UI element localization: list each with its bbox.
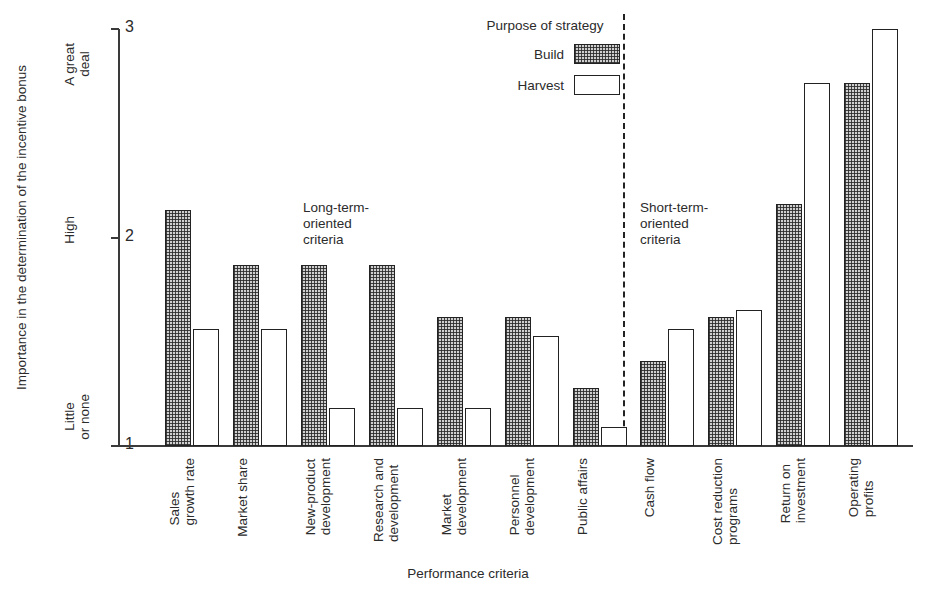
- bar-operating-profits-harvest: [872, 29, 898, 446]
- bar-new-product-development-harvest: [329, 408, 355, 446]
- legend-item-harvest: Harvest: [470, 75, 620, 95]
- x-category-label-cost-reduction-programs: Cost reduction programs: [710, 458, 740, 545]
- bar-market-share-harvest: [261, 329, 287, 446]
- bar-cost-reduction-programs-harvest: [736, 310, 762, 446]
- annotation-long-term: Long-term- oriented criteria: [303, 200, 369, 249]
- legend-item-build: Build: [470, 44, 620, 64]
- bar-personnel-development-build: [505, 317, 531, 446]
- bar-research-and-development-build: [369, 265, 395, 446]
- y-category-label-high: High: [62, 216, 77, 244]
- annotation-short-term: Short-term- oriented criteria: [640, 200, 708, 249]
- criteria-divider: [623, 14, 625, 446]
- bar-sales-growth-rate-harvest: [193, 329, 219, 446]
- bar-return-on-investment-build: [776, 204, 802, 446]
- x-category-label-operating-profits: Operating profits: [846, 458, 876, 517]
- bar-market-share-build: [233, 265, 259, 446]
- x-category-label-return-on-investment: Return on investment: [778, 458, 808, 523]
- bar-cash-flow-harvest: [668, 329, 694, 446]
- legend-title: Purpose of strategy: [470, 18, 620, 33]
- bar-return-on-investment-harvest: [804, 83, 830, 446]
- x-category-label-market-development: Market development: [439, 458, 469, 535]
- bar-public-affairs-harvest: [601, 427, 627, 446]
- y-category-label-a-great-deal: A great deal: [62, 43, 92, 86]
- bar-market-development-harvest: [465, 408, 491, 446]
- x-category-label-research-and-development: Research and development: [371, 458, 401, 542]
- bar-research-and-development-harvest: [397, 408, 423, 446]
- y-tick-2: [111, 237, 119, 239]
- bar-public-affairs-build: [573, 388, 599, 446]
- bar-operating-profits-build: [844, 83, 870, 446]
- x-category-label-sales-growth-rate: Sales growth rate: [167, 458, 197, 526]
- x-axis-title: Performance criteria: [0, 566, 936, 581]
- x-category-label-public-affairs: Public affairs: [575, 458, 590, 535]
- legend: Purpose of strategy Build Harvest: [470, 18, 620, 95]
- bar-sales-growth-rate-build: [165, 210, 191, 446]
- legend-swatch-build-icon: [574, 44, 620, 64]
- bar-cost-reduction-programs-build: [708, 317, 734, 446]
- bar-personnel-development-harvest: [533, 336, 559, 447]
- x-category-label-personnel-development: Personnel development: [507, 458, 537, 535]
- y-tick-3: [111, 28, 119, 30]
- bar-new-product-development-build: [301, 265, 327, 446]
- x-category-label-new-product-development: New-product development: [303, 458, 333, 535]
- x-category-label-cash-flow: Cash flow: [642, 458, 657, 517]
- y-axis-title: Importance in the determination of the i…: [14, 120, 29, 390]
- x-category-label-market-share: Market share: [235, 458, 250, 537]
- legend-label-harvest: Harvest: [517, 78, 564, 93]
- bar-market-development-build: [437, 317, 463, 446]
- bar-cash-flow-build: [640, 361, 666, 446]
- legend-label-build: Build: [534, 47, 564, 62]
- y-category-label-little-or-none: Little or none: [62, 394, 92, 440]
- bar-chart: Importance in the determination of the i…: [0, 0, 936, 603]
- legend-swatch-harvest-icon: [574, 75, 620, 95]
